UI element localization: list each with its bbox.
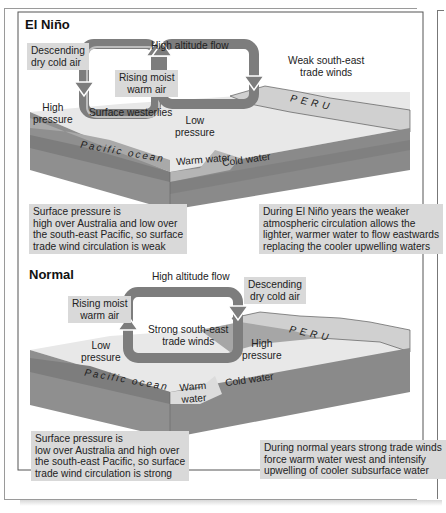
normal-high-altitude-flow-label: High altitude flow bbox=[152, 271, 230, 283]
el-nino-heading: El Niño bbox=[25, 17, 70, 32]
normal-caption-right: During normal years strong trade winds f… bbox=[260, 440, 446, 479]
normal-descending-air-label: Descending dry cold air bbox=[244, 277, 306, 304]
el-nino-surface-westerlies-label: Surface westerlies bbox=[89, 107, 172, 119]
el-nino-caption-left: Surface pressure is high over Australia … bbox=[29, 204, 187, 254]
el-nino-descending-air-label: Descending dry cold air bbox=[27, 43, 89, 70]
normal-heading: Normal bbox=[29, 267, 74, 282]
el-nino-low-pressure-label: Low pressure bbox=[175, 115, 215, 138]
normal-caption-left: Surface pressure is low over Australia a… bbox=[31, 431, 189, 481]
normal-low-pressure-label: Low pressure bbox=[81, 340, 121, 363]
normal-high-pressure-label: High pressure bbox=[242, 338, 282, 361]
el-nino-rising-air-label: Rising moist warm air bbox=[115, 70, 178, 97]
normal-rising-air-label: Rising moist warm air bbox=[68, 296, 131, 323]
el-nino-caption-right: During El Niño years the weaker atmosphe… bbox=[259, 204, 443, 254]
el-nino-high-altitude-flow-label: High altitude flow bbox=[151, 40, 229, 52]
normal-strong-trade-winds-label: Strong south-east trade winds bbox=[148, 324, 228, 347]
normal-warm-water-label: Warm water bbox=[179, 380, 208, 405]
el-nino-high-pressure-label: High pressure bbox=[33, 102, 73, 125]
el-nino-weak-trade-winds-label: Weak south-east trade winds bbox=[288, 55, 364, 78]
